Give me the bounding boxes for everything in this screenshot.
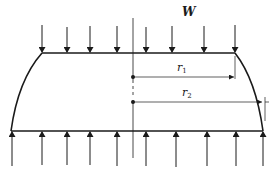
frustum-load-diagram <box>0 0 273 173</box>
bottom-reaction-arrows <box>12 132 263 167</box>
body-outline <box>11 53 263 131</box>
diagram-canvas: W r1 r2 <box>0 0 273 173</box>
radius-label-r2: r2 <box>182 87 192 100</box>
r2-dimension <box>131 97 269 121</box>
r1-subscript: 1 <box>182 67 186 75</box>
right-side-curve <box>235 53 263 131</box>
top-load-arrows <box>42 25 235 52</box>
left-side-curve <box>11 53 42 131</box>
r2-subscript: 2 <box>187 92 191 100</box>
load-label-w: W <box>182 6 195 18</box>
radius-label-r1: r1 <box>177 62 187 75</box>
